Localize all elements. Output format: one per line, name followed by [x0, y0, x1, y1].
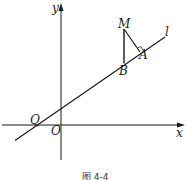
point-a-label: A — [138, 48, 148, 62]
point-q-label: Q — [30, 113, 40, 127]
point-b-label: B — [118, 64, 128, 78]
figure-caption: 图 4-4 — [82, 172, 109, 180]
coordinate-diagram: y x O Q M A B l 图 4-4 — [0, 0, 187, 180]
origin-label: O — [51, 124, 61, 138]
x-axis-label: x — [176, 126, 183, 140]
y-axis-arrow-icon — [59, 3, 64, 11]
y-axis-label: y — [51, 1, 59, 15]
point-m-label: M — [117, 17, 131, 31]
line-l-label: l — [165, 25, 169, 39]
